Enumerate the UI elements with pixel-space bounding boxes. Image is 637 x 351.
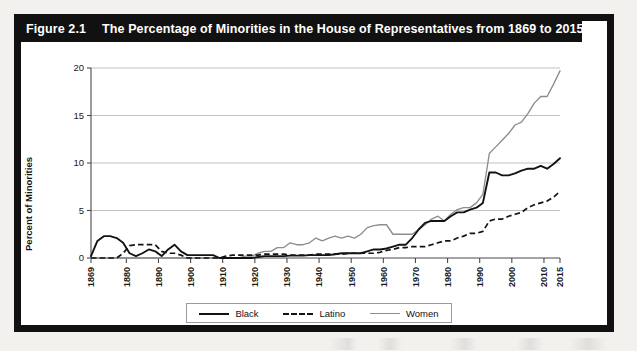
- x-tick-label: 1880: [122, 267, 132, 287]
- y-tick-label: 10: [73, 157, 84, 168]
- x-tick-label: 1960: [379, 267, 389, 287]
- line-chart: 05101520 1869188018901900191019201930194…: [14, 44, 614, 330]
- chart-area: 05101520 1869188018901900191019201930194…: [14, 44, 614, 330]
- series-line-latino: [91, 192, 560, 259]
- legend-item-latino: Latino: [283, 308, 345, 319]
- scan-artifact-text: [330, 338, 630, 350]
- y-tick-label: 20: [73, 62, 84, 73]
- legend-swatch-latino-line: [283, 309, 313, 317]
- x-tick-label: 1990: [475, 267, 485, 287]
- series-lines: [91, 71, 560, 258]
- series-line-black: [91, 158, 560, 258]
- x-tick-label: 2015: [555, 267, 565, 287]
- figure-title-bar: Figure 2.1 The Percentage of Minorities …: [14, 16, 582, 42]
- figure-title: The Percentage of Minorities in the Hous…: [102, 22, 584, 36]
- legend-swatch-women-line: [370, 309, 400, 317]
- series-line-women: [91, 71, 560, 258]
- y-axis-label: Percent of Minorities: [23, 157, 34, 251]
- x-tick-label: 1900: [186, 267, 196, 287]
- y-tick-label: 5: [79, 205, 84, 216]
- y-tick-label: 0: [79, 252, 84, 263]
- y-axis: 05101520: [73, 62, 91, 263]
- x-tick-label: 1910: [218, 267, 228, 287]
- legend-label-women: Women: [406, 308, 439, 319]
- x-tick-label: 1890: [154, 267, 164, 287]
- x-axis: 1869188018901900191019201930194019501960…: [86, 258, 565, 287]
- legend-item-black: Black: [199, 308, 258, 319]
- x-tick-label: 1950: [347, 267, 357, 287]
- x-tick-label: 1869: [86, 267, 96, 287]
- x-tick-label: 2010: [539, 267, 549, 287]
- legend-swatch-black-line: [199, 309, 229, 317]
- x-tick-label: 1930: [282, 267, 292, 287]
- x-tick-label: 1920: [250, 267, 260, 287]
- x-tick-label: 1980: [443, 267, 453, 287]
- legend-label-latino: Latino: [319, 308, 345, 319]
- x-tick-label: 2000: [507, 267, 517, 287]
- figure-number: Figure 2.1: [26, 22, 86, 36]
- grid-lines: [91, 68, 560, 211]
- x-tick-label: 1970: [411, 267, 421, 287]
- legend-item-women: Women: [370, 308, 439, 319]
- legend-label-black: Black: [235, 308, 258, 319]
- chart-legend: Black Latino Women: [186, 303, 452, 323]
- x-tick-label: 1940: [314, 267, 324, 287]
- y-tick-label: 15: [73, 110, 84, 121]
